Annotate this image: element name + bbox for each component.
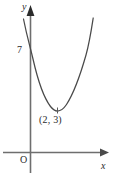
y-intercept-label: 7 xyxy=(17,45,22,55)
y-axis xyxy=(27,5,35,173)
x-axis-label: x xyxy=(101,161,105,171)
x-axis-arrowhead xyxy=(100,149,109,157)
graph-figure: y x O 7 (2, 3) xyxy=(0,0,114,175)
graph-canvas xyxy=(0,0,114,175)
parabola-curve xyxy=(24,18,94,111)
origin-label: O xyxy=(20,155,27,165)
vertex-label: (2, 3) xyxy=(39,115,62,125)
y-axis-arrowhead xyxy=(27,5,35,16)
y-axis-label: y xyxy=(22,2,26,12)
x-axis xyxy=(3,149,109,157)
